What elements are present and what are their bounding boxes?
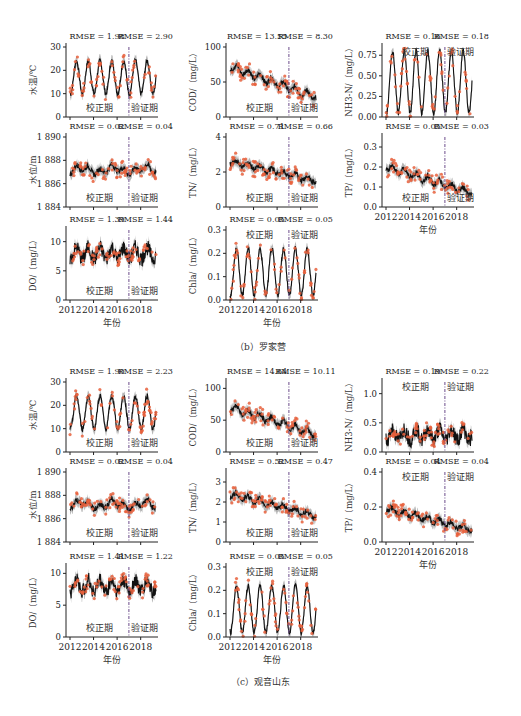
y-tick-label: 0 [216,202,221,212]
period-calibration-label: 校正期 [86,285,113,296]
y-tick-label: 1 888 [37,490,61,500]
y-tick-label: 30 [50,42,61,52]
x-tick-label: 2016 [106,305,129,315]
x-tick-label: 2016 [266,305,289,315]
y-tick-label: 20 [50,65,61,75]
x-tick-label: 2014 [398,212,421,222]
y-tick-label: 0.3 [207,225,221,235]
x-axis-title: 年份 [419,224,437,235]
observed-points [69,54,157,101]
panel-b-2: 0.000.250.500.75NH3-N/（mg/L）RMSE = 0.16R… [344,32,489,122]
caption-c: （c）观音山东 [0,675,521,688]
rmse-calibration: RMSE = 1.39 [70,215,125,224]
period-validation-label: 验证期 [447,381,474,392]
y-tick-label: 1.0 [363,389,377,399]
y-axis-title: DO/（mg/L） [28,572,38,629]
y-axis-title: TN/（mg/L） [188,477,198,533]
y-tick-label: 0 [56,632,61,642]
x-tick-label: 2012 [219,305,242,315]
y-tick-label: 0 [56,112,61,122]
x-tick-label: 2018 [445,547,468,557]
period-validation-label: 验证期 [131,622,158,633]
x-tick-label: 2016 [422,212,445,222]
x-tick-label: 2018 [129,305,152,315]
rmse-calibration: RMSE = 0.02 [70,457,125,466]
y-tick-label: 0.1 [363,182,377,192]
panel-b-1: 050100COD/（mg/L）RMSE = 13.55RMSE = 8.30校… [188,32,333,122]
period-validation-label: 验证期 [131,527,158,538]
x-axis-title: 年份 [263,317,281,328]
period-calibration-label: 校正期 [402,471,429,482]
period-validation-label: 验证期 [131,285,158,296]
rmse-validation: RMSE = 0.22 [434,367,489,376]
y-axis-title: DO/（mg/L） [28,235,38,292]
figure-canvas: 0102030水温/℃RMSE = 1.98RMSE = 2.90校正期验证期0… [0,0,521,716]
y-tick-label: 0.3 [207,562,221,572]
rmse-calibration: RMSE = 0.05 [386,122,441,131]
y-tick-label: 0 [216,112,221,122]
y-tick-label: 1 886 [37,179,61,189]
rmse-validation: RMSE = 1.22 [118,552,173,561]
y-axis-title: TP/（mg/L） [344,143,354,197]
period-validation-label: 验证期 [291,566,318,577]
panel-b-7: 0.00.10.20.32012201420162018年份Chla/（mg/L… [188,215,333,328]
y-tick-label: 2 [216,497,221,507]
y-tick-label: 4 [216,132,221,142]
y-tick-label: 0.1 [207,272,221,282]
period-calibration-label: 校正期 [246,437,273,448]
observed-points [69,491,156,518]
y-tick-label: 100 [205,42,221,52]
rmse-validation: RMSE = 1.44 [118,215,173,224]
x-axis-title: 年份 [263,654,281,665]
y-tick-label: 0.0 [363,202,377,212]
rmse-validation: RMSE = 0.05 [278,215,333,224]
x-tick-label: 2014 [398,547,421,557]
x-tick-label: 2012 [219,642,242,652]
period-validation-label: 验证期 [291,437,318,448]
period-calibration-label: 校正期 [246,229,273,240]
y-tick-label: 0.5 [363,418,377,428]
y-tick-label: 0.2 [207,248,221,258]
y-tick-label: 1 884 [37,537,61,547]
period-calibration-label: 校正期 [86,192,113,203]
period-calibration-label: 校正期 [86,527,113,538]
y-tick-label: 1 890 [37,467,61,477]
y-tick-label: 5 [56,600,61,610]
y-tick-label: 0.0 [363,537,377,547]
y-tick-label: 0.0 [207,295,221,305]
y-tick-label: 0.4 [363,467,377,477]
y-tick-label: 0.2 [363,502,377,512]
x-tick-label: 2018 [289,642,312,652]
y-tick-label: 30 [50,377,61,387]
y-axis-title: Chla/（mg/L） [188,232,198,295]
y-tick-label: 20 [50,400,61,410]
y-axis-title: Chla/（mg/L） [188,569,198,632]
y-axis-title: TP/（mg/L） [344,478,354,532]
x-tick-label: 2012 [59,305,82,315]
y-tick-label: 0 [216,537,221,547]
rmse-calibration: RMSE = 0.16 [386,32,441,41]
rmse-calibration: RMSE = 0.19 [386,367,441,376]
x-tick-label: 2014 [82,642,105,652]
y-axis-title: NH3-N/（mg/L） [344,43,354,116]
rmse-validation: RMSE = 0.04 [434,457,489,466]
y-tick-label: 10 [50,424,61,434]
x-tick-label: 2012 [375,547,398,557]
panel-c-9: 050100COD/（mg/L）RMSE = 14.64RMSE = 10.11… [188,367,336,457]
rmse-calibration: RMSE = 0.52 [230,457,285,466]
rmse-validation: RMSE = 0.04 [118,122,173,131]
y-axis-title: NH3-N/（mg/L） [344,378,354,451]
period-validation-label: 验证期 [291,229,318,240]
y-tick-label: 2 [216,167,221,177]
y-tick-label: 0.3 [363,142,377,152]
y-tick-label: 0.2 [363,162,377,172]
y-tick-label: 1 [216,517,221,527]
panel-b-6: 05102012201420162018年份DO/（mg/L）RMSE = 1.… [28,215,173,328]
y-axis-title: COD/（mg/L） [188,383,198,446]
rmse-calibration: RMSE = 0.02 [70,122,125,131]
y-tick-label: 50 [210,415,221,425]
uncertainty-band [230,485,316,525]
rmse-calibration: RMSE = 0.05 [230,215,285,224]
panel-c-11: 1 8841 8861 8881 890水位/mRMSE = 0.02RMSE … [28,457,173,547]
rmse-validation: RMSE = 0.05 [278,552,333,561]
